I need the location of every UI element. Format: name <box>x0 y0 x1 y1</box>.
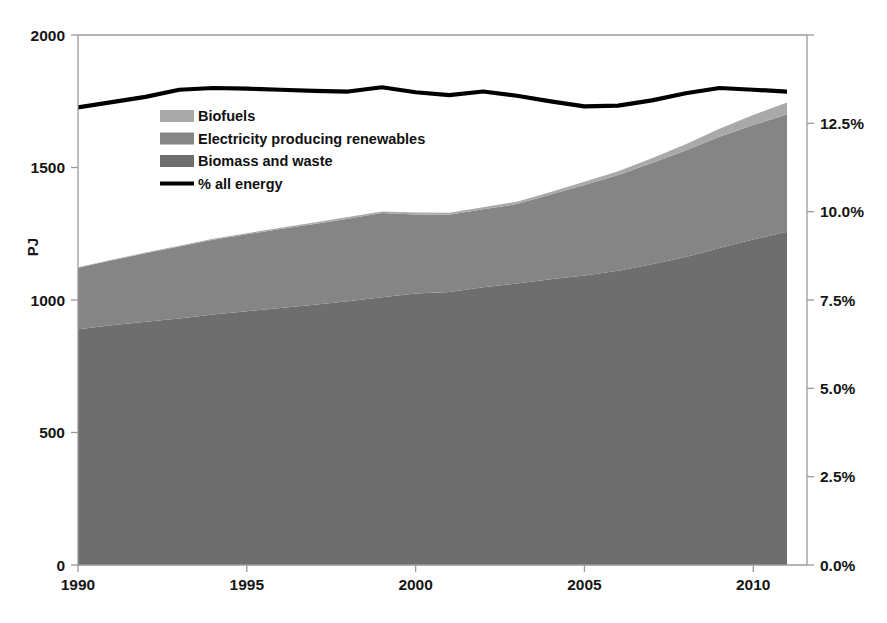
legend-label-biomass-and-waste: Biomass and waste <box>198 153 333 169</box>
y2-tick-label: 2.5% <box>820 468 856 485</box>
x-tick-label: 1995 <box>230 576 265 593</box>
x-tick-label: 2010 <box>736 576 770 593</box>
legend-label-electricity-producing-renewables: Electricity producing renewables <box>198 131 425 147</box>
legend-swatch-electricity-producing-renewables <box>160 133 194 145</box>
x-tick-label: 2005 <box>567 576 602 593</box>
y2-tick-label: 12.5% <box>820 115 864 132</box>
y2-tick-label: 5.0% <box>820 380 856 397</box>
chart-container: 0500100015002000 0.0%2.5%5.0%7.5%10.0%12… <box>0 0 887 623</box>
y-tick-label: 2000 <box>31 27 65 44</box>
legend-swatch-biofuels <box>160 110 194 122</box>
stacked-area-chart: 0500100015002000 0.0%2.5%5.0%7.5%10.0%12… <box>0 0 887 623</box>
legend-label--all-energy: % all energy <box>198 176 283 192</box>
y-axis-title: PJ <box>24 238 41 256</box>
y-tick-label: 0 <box>56 557 65 574</box>
legend-swatch-biomass-and-waste <box>160 155 194 167</box>
x-tick-label: 1990 <box>61 576 95 593</box>
legend-label-biofuels: Biofuels <box>198 108 255 124</box>
y2-tick-label: 10.0% <box>820 203 864 220</box>
x-tick-label: 2000 <box>398 576 432 593</box>
y-tick-label: 1500 <box>31 159 65 176</box>
y-tick-label: 500 <box>39 424 65 441</box>
y2-tick-label: 7.5% <box>820 292 856 309</box>
y-tick-label: 1000 <box>31 292 65 309</box>
y2-tick-label: 0.0% <box>820 557 856 574</box>
